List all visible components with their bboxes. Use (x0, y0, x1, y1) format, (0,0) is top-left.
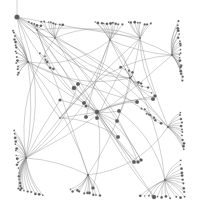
graph-node (181, 139, 183, 141)
graph-node (151, 92, 153, 94)
graph-node (175, 196, 177, 198)
graph-node (91, 186, 95, 190)
graph-node (141, 85, 143, 87)
graph-nodes (12, 14, 186, 199)
graph-node (61, 23, 64, 26)
graph-node (146, 113, 148, 115)
graph-node (164, 179, 166, 181)
graph-node (171, 54, 173, 56)
graph-node (180, 112, 182, 114)
graph-node (180, 73, 182, 75)
graph-node (153, 94, 157, 98)
graph-node (48, 21, 50, 23)
graph-node (15, 46, 17, 48)
graph-node (18, 167, 20, 169)
graph-node (112, 22, 114, 24)
graph-node (132, 160, 136, 164)
graph-node (182, 145, 185, 148)
graph-node (115, 119, 119, 123)
graph-node (16, 56, 18, 58)
graph-edge (26, 55, 172, 158)
graph-node (135, 100, 139, 104)
graph-edge (119, 111, 165, 180)
graph-node (181, 178, 183, 180)
graph-node (44, 55, 46, 57)
graph-node (149, 114, 151, 116)
graph-edge (88, 38, 140, 175)
graph-node (92, 194, 94, 196)
graph-node (183, 142, 186, 145)
graph-node (59, 117, 61, 119)
graph-node (182, 182, 184, 184)
graph-node (179, 66, 182, 69)
graph-node (95, 110, 100, 115)
graph-node (133, 21, 136, 24)
graph-node (16, 157, 19, 160)
graph-node (31, 22, 33, 24)
graph-edge (60, 100, 97, 112)
graph-edge (97, 112, 118, 137)
graph-node (152, 195, 156, 199)
graph-node (181, 121, 183, 123)
graph-node (58, 98, 61, 101)
graph-node (42, 194, 44, 196)
graph-node (181, 79, 183, 81)
graph-edge (28, 62, 130, 82)
graph-edge (55, 38, 154, 197)
graph-node (144, 108, 146, 110)
graph-node (84, 115, 88, 119)
graph-node (14, 14, 19, 19)
graph-node (183, 148, 185, 150)
graph-node (184, 196, 186, 198)
graph-node (178, 33, 180, 35)
graph-node (109, 39, 111, 41)
graph-node (121, 23, 123, 25)
graph-node (40, 21, 42, 23)
graph-node (167, 126, 169, 128)
graph-node (46, 61, 49, 64)
graph-node (181, 134, 183, 136)
graph-node (181, 129, 183, 131)
graph-edge (88, 127, 168, 175)
graph-node (181, 131, 183, 133)
graph-edges (13, 0, 185, 198)
graph-node (178, 59, 181, 62)
graph-node (14, 143, 16, 145)
graph-node (117, 23, 119, 25)
graph-node (96, 22, 99, 25)
graph-node (14, 136, 17, 139)
graph-node (18, 172, 20, 174)
graph-node (160, 196, 163, 199)
graph-node (14, 140, 17, 143)
graph-node (49, 66, 52, 69)
graph-node (14, 133, 16, 135)
graph-node (27, 61, 29, 63)
graph-node (52, 22, 54, 24)
graph-node (16, 52, 18, 54)
graph-node (131, 71, 134, 74)
graph-node (119, 66, 122, 69)
graph-node (179, 70, 182, 73)
graph-node (17, 74, 19, 76)
graph-node (109, 22, 112, 25)
graph-node (70, 188, 72, 190)
graph-node (14, 35, 16, 37)
graph-node (144, 23, 146, 25)
graph-node (160, 122, 163, 125)
graph-node (180, 52, 182, 54)
graph-node (180, 125, 183, 128)
graph-node (36, 29, 38, 31)
graph-node (94, 21, 96, 23)
graph-node (137, 81, 140, 84)
graph-edge (17, 17, 35, 158)
graph-node (28, 21, 30, 23)
graph-node (40, 24, 43, 27)
graph-node (154, 119, 156, 121)
graph-node (36, 24, 39, 27)
graph-node (180, 159, 182, 161)
graph-node (39, 52, 41, 54)
graph-edge (97, 38, 140, 118)
graph-node (83, 192, 85, 194)
graph-node (55, 23, 57, 25)
graph-node (15, 155, 17, 157)
